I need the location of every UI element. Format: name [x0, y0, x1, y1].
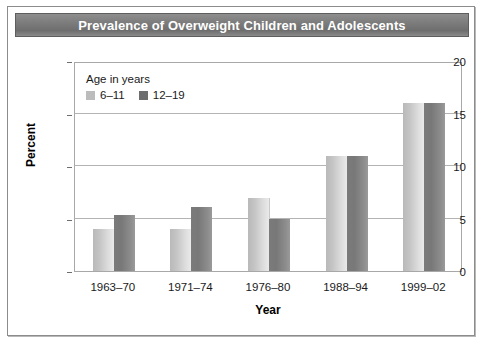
- chart-figure: Prevalence of Overweight Children and Ad…: [7, 6, 475, 336]
- x-tick-label: 1963–70: [90, 281, 135, 293]
- legend-swatch-dark: [139, 91, 148, 100]
- bar-12-19-1988-94: [347, 156, 368, 272]
- y-tick-label: 10: [453, 161, 466, 173]
- legend-swatch-light: [86, 91, 95, 100]
- x-tick-label: 1971–74: [168, 281, 213, 293]
- y-tick-label: 15: [453, 109, 466, 121]
- page-title: Prevalence of Overweight Children and Ad…: [78, 18, 405, 33]
- chart-title-bar: Prevalence of Overweight Children and Ad…: [15, 13, 469, 37]
- y-tick-label: 20: [453, 56, 466, 68]
- bar-6-11-1988-94: [326, 156, 348, 272]
- legend-label: 6–11: [100, 89, 125, 101]
- legend-items: 6–1112–19: [86, 89, 185, 101]
- bar-12-19-1963-70: [114, 215, 135, 271]
- x-tick-label: 1976–80: [246, 281, 291, 293]
- y-axis: [8, 7, 74, 335]
- y-tick-label: 0: [460, 266, 466, 278]
- x-axis-title: Year: [255, 303, 280, 317]
- y-tick-label: 5: [460, 214, 466, 226]
- legend-title: Age in years: [86, 73, 185, 85]
- y-tick-mark: [67, 220, 72, 221]
- legend-label: 12–19: [153, 89, 185, 101]
- bar-6-11-1976-80: [248, 198, 270, 272]
- legend-entry: 12–19: [139, 89, 185, 101]
- bar-12-19-1976-80: [269, 219, 290, 272]
- x-tick-label: 1988–94: [323, 281, 368, 293]
- bar-12-19-1971-74: [191, 207, 212, 271]
- chart-legend: Age in years 6–1112–19: [86, 73, 185, 101]
- x-tick-label: 1999–02: [401, 281, 446, 293]
- y-tick-mark: [67, 115, 72, 116]
- bar-12-19-1999-02: [424, 103, 445, 271]
- legend-entry: 6–11: [86, 89, 125, 101]
- y-tick-mark: [67, 167, 72, 168]
- bar-6-11-1999-02: [403, 103, 425, 271]
- y-tick-mark: [67, 272, 72, 273]
- bar-6-11-1963-70: [93, 229, 115, 271]
- bar-6-11-1971-74: [170, 229, 192, 271]
- y-tick-mark: [67, 62, 72, 63]
